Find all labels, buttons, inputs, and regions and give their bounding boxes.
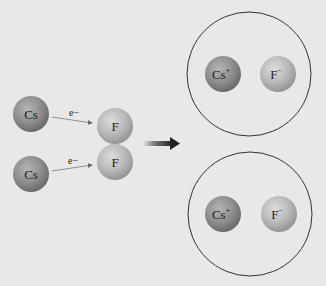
f-atom: F xyxy=(97,108,133,144)
product-ion-pair: Cs+ F− xyxy=(187,12,311,136)
cs-atom: Cs xyxy=(13,156,49,192)
f-atom-label: F xyxy=(111,119,118,134)
f-anion: F− xyxy=(260,56,296,92)
ionic-bond-diagram: Cs Cs e− e− F F Cs+ F− xyxy=(0,0,326,286)
product-ion-pair: Cs+ F− xyxy=(188,152,312,276)
f-atom-label: F xyxy=(111,155,118,170)
electron-label: e− xyxy=(68,155,78,166)
cs-cation: Cs+ xyxy=(205,56,241,92)
cs-atom-label: Cs xyxy=(24,167,38,182)
cs-atom-label: Cs xyxy=(24,107,38,122)
reaction-arrow xyxy=(143,137,180,150)
cs-atom: Cs xyxy=(13,96,49,132)
electron-label: e− xyxy=(69,107,79,118)
f-anion: F− xyxy=(261,196,297,232)
cs-cation: Cs+ xyxy=(205,196,241,232)
f-atom: F xyxy=(97,144,133,180)
reactants: Cs Cs e− e− F F xyxy=(13,96,133,192)
